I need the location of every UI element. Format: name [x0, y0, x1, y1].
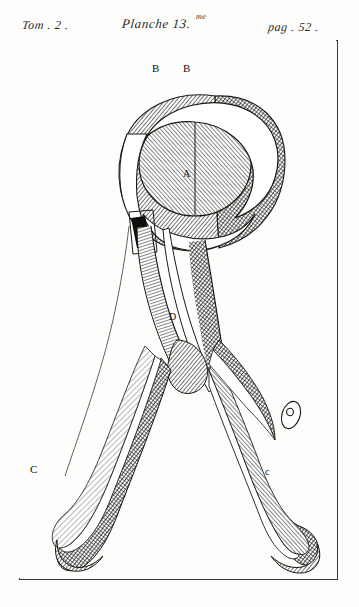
label-c-right: c [265, 466, 270, 477]
plate-header: Tom . 2 . Planche 13. me pag . 52 . [0, 14, 359, 40]
plate-number: Planche 13. [121, 16, 191, 32]
engraving-page: Tom . 2 . Planche 13. me pag . 52 . [0, 0, 359, 607]
label-c-left: C [30, 463, 38, 475]
volume-label: Tom . 2 . [21, 18, 69, 33]
label-b-left: B [152, 62, 160, 74]
forceps-illustration [19, 40, 336, 578]
page-reference: pag . 52 . [267, 20, 320, 35]
plate-ordinal-suffix: me [196, 12, 207, 21]
label-a: A [183, 168, 191, 179]
label-d: D [169, 311, 177, 322]
label-b-right: B [183, 62, 191, 74]
